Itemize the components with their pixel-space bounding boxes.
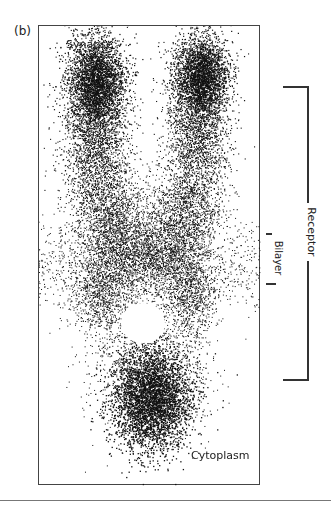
bottom-divider xyxy=(0,500,331,501)
receptor-label: Receptor xyxy=(305,203,317,261)
bilayer-label: Bilayer xyxy=(272,233,284,283)
cytoplasm-label: Cytoplasm xyxy=(191,449,249,462)
synapse-label: Synapse xyxy=(66,38,113,51)
electron-density-map xyxy=(39,26,261,486)
density-map-frame xyxy=(38,25,260,485)
panel-label: (b) xyxy=(14,24,31,38)
